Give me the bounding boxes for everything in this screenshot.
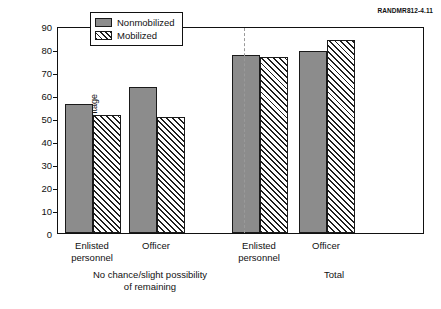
x-axis-supergroup-label-line1: No chance/slight possibility (50, 269, 250, 281)
x-axis-supergroup-label-line1: Total (234, 269, 434, 281)
y-axis-tick-mark (53, 74, 58, 75)
y-axis-tick-mark (53, 189, 58, 190)
x-axis-group-label: Officer (96, 240, 216, 252)
legend-item-nonmobilized: Nonmobilized (95, 16, 175, 29)
y-axis-tick-label: 20 (28, 184, 52, 194)
y-axis-tick-mark (53, 120, 58, 121)
y-axis-tick-label: 90 (28, 23, 52, 33)
y-axis-tick-label: 30 (28, 161, 52, 171)
y-axis-tick-label: 0 (28, 230, 52, 240)
y-axis-tick-label: 80 (28, 46, 52, 56)
legend-label-nonmobilized: Nonmobilized (117, 17, 175, 28)
y-axis-tick-mark (53, 51, 58, 52)
y-axis-tick-label: 40 (28, 138, 52, 148)
y-axis-tick-mark (53, 212, 58, 213)
y-axis-tick-label: 60 (28, 92, 52, 102)
x-axis-supergroup-label-line2: of remaining (50, 281, 250, 293)
bar-mobilized-1 (157, 117, 185, 233)
x-axis-group-label-line1: Officer (266, 240, 386, 252)
chart-legend: Nonmobilized Mobilized (90, 12, 183, 46)
bar-nonmobilized-3 (299, 51, 327, 233)
bar-nonmobilized-2 (232, 55, 260, 233)
x-axis-group-label-line2: personnel (199, 252, 319, 264)
figure-identifier: RANDMR812-4.11 (377, 7, 433, 14)
x-axis-supergroup-label: No chance/slight possibilityof remaining (50, 269, 250, 292)
y-axis-tick-label: 10 (28, 207, 52, 217)
x-axis-group-label: Officer (266, 240, 386, 252)
chart-bars-container (58, 28, 423, 233)
legend-item-mobilized: Mobilized (95, 29, 175, 42)
bar-nonmobilized-1 (129, 87, 157, 233)
bar-mobilized-0 (93, 115, 121, 233)
legend-label-mobilized: Mobilized (117, 30, 157, 41)
y-axis-tick-mark (53, 143, 58, 144)
bar-nonmobilized-0 (65, 104, 93, 233)
y-axis-tick-mark (53, 97, 58, 98)
y-axis-tick-mark (53, 166, 58, 167)
bar-mobilized-3 (327, 40, 355, 233)
legend-swatch-nonmobilized (95, 18, 112, 27)
supergroup-divider (244, 28, 245, 233)
y-axis-tick-label: 50 (28, 115, 52, 125)
x-axis-supergroup-label: Total (234, 269, 434, 281)
x-axis-group-label-line2: personnel (32, 252, 152, 264)
y-axis-tick-label: 70 (28, 69, 52, 79)
chart-plot-area: Percentage 0102030405060708090 (57, 27, 424, 234)
x-axis-group-label-line1: Officer (96, 240, 216, 252)
bar-mobilized-2 (260, 57, 288, 233)
legend-swatch-mobilized (95, 31, 112, 40)
